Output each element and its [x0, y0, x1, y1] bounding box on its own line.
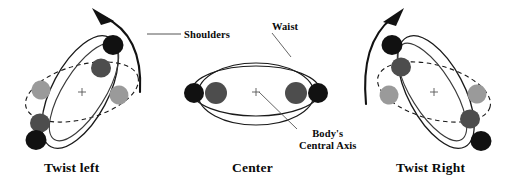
waist-marker — [29, 78, 52, 101]
label-waist: Waist — [272, 21, 298, 32]
panel-twist-right — [365, 8, 497, 160]
label-axis-line1: Body's — [299, 128, 357, 140]
shoulder-marker — [26, 130, 47, 150]
label-shoulders: Shoulders — [184, 29, 230, 40]
center-cross-left — [78, 88, 86, 96]
waist-marker — [465, 82, 488, 105]
twist-diagram-figure: Shoulders Waist Body's Central Axis Twis… — [0, 0, 510, 184]
caption-center: Center — [232, 160, 273, 176]
waist-marker — [377, 83, 400, 106]
panel-twist-left — [19, 8, 145, 160]
panel-center — [184, 63, 328, 125]
caption-twist-right: Twist Right — [396, 160, 465, 176]
waist-marker — [205, 82, 227, 104]
label-axis-line2: Central Axis — [299, 140, 357, 152]
shoulder-marker — [308, 83, 328, 103]
waist-marker — [285, 82, 307, 104]
shoulder-marker — [460, 110, 480, 129]
shoulder-marker — [391, 58, 411, 77]
center-cross-center — [252, 88, 260, 96]
shoulder-marker — [184, 83, 204, 103]
diagram-canvas — [0, 0, 510, 184]
label-body-central-axis: Body's Central Axis — [299, 128, 357, 151]
center-cross-right — [430, 88, 438, 96]
shoulder-marker — [30, 114, 50, 133]
shoulder-marker — [91, 59, 111, 78]
caption-twist-left: Twist left — [44, 160, 99, 176]
shoulder-marker — [471, 131, 492, 151]
shoulder-marker — [382, 35, 403, 55]
waist-leader-line — [272, 33, 291, 57]
shoulder-marker — [103, 35, 124, 55]
